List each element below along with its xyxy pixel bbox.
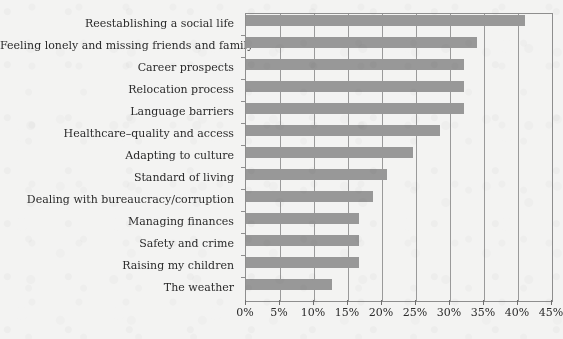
bar-row [246,168,552,190]
category-label: Feeling lonely and missing friends and f… [0,35,240,57]
category-label: Raising my children [0,255,240,277]
bar-row [246,102,552,124]
category-axis-tick [241,101,246,102]
x-axis-tick-label: 15% [335,306,359,319]
category-label: Managing finances [0,211,240,233]
x-axis-tick-label: 0% [236,306,253,319]
x-axis-tick-label: 35% [471,306,495,319]
bar [246,59,464,70]
x-axis-tick-label: 10% [301,306,325,319]
bar [246,125,440,136]
x-axis-tick [245,300,246,305]
bar [246,235,359,246]
x-axis: 0%5%10%15%20%25%30%35%40%45% [245,300,552,339]
category-axis-labels: Reestablishing a social life Feeling lon… [0,13,240,299]
x-axis-tick [313,300,314,305]
category-axis-tick [241,35,246,36]
bar [246,169,387,180]
x-axis-tick-label: 20% [369,306,393,319]
bar-row [246,212,552,234]
bar [246,213,359,224]
category-label: Relocation process [0,79,240,101]
bar [246,37,477,48]
category-label: The weather [0,277,240,299]
bar [246,81,464,92]
x-axis-tick [381,300,382,305]
category-label: Career prospects [0,57,240,79]
bar-row [246,190,552,212]
x-axis-tick-label: 40% [505,306,529,319]
category-label: Adapting to culture [0,145,240,167]
x-axis-tick [347,300,348,305]
bar [246,15,525,26]
plot-area [245,13,553,302]
bar-row [246,36,552,58]
bars-layer [246,14,552,301]
bar [246,147,413,158]
x-axis-tick [483,300,484,305]
bar [246,279,332,290]
category-label: Standard of living [0,167,240,189]
category-axis-tick [241,145,246,146]
category-axis-tick [241,189,246,190]
bar-row [246,146,552,168]
category-axis-tick [241,277,246,278]
bar-row [246,14,552,36]
category-axis-tick [241,255,246,256]
category-label: Language barriers [0,101,240,123]
category-label: Dealing with bureaucracy/corruption [0,189,240,211]
x-axis-tick [449,300,450,305]
category-axis-tick [241,211,246,212]
category-axis-tick [241,167,246,168]
bar-row [246,256,552,278]
bar-row [246,58,552,80]
bar [246,103,464,114]
x-axis-tick [551,300,552,305]
category-axis-tick [241,57,246,58]
bar-row [246,80,552,102]
category-label: Reestablishing a social life [0,13,240,35]
bar-row [246,234,552,256]
x-axis-tick-label: 45% [539,306,563,319]
x-axis-tick-label: 5% [270,306,287,319]
category-axis-tick [241,79,246,80]
x-axis-tick-label: 30% [437,306,461,319]
bar-row [246,124,552,146]
bar-row [246,278,552,300]
x-axis-tick-label: 25% [403,306,427,319]
horizontal-bar-chart: Reestablishing a social life Feeling lon… [0,0,563,339]
category-axis-tick [241,233,246,234]
category-label: Healthcare–quality and access [0,123,240,145]
x-axis-tick [415,300,416,305]
x-axis-tick [517,300,518,305]
bar [246,191,373,202]
category-axis-tick [241,123,246,124]
category-label: Safety and crime [0,233,240,255]
bar [246,257,359,268]
x-axis-tick [279,300,280,305]
